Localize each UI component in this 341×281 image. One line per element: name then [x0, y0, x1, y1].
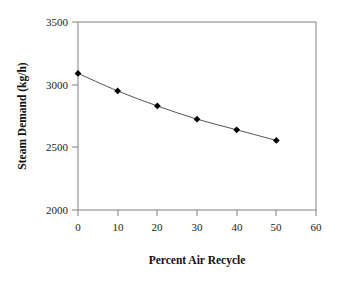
y-tick-label-2500: 2500: [46, 141, 69, 153]
x-tick-label-0: 0: [75, 221, 81, 233]
x-tick-label-10: 10: [113, 221, 125, 233]
line-chart: 3500 3000 2500 2000 0 10 20 30 40 50 60 …: [0, 0, 341, 281]
y-tick-label-3000: 3000: [46, 79, 69, 91]
y-tick-label-3500: 3500: [46, 16, 69, 28]
x-tick-label-30: 30: [192, 221, 204, 233]
x-tick-label-50: 50: [271, 221, 283, 233]
y-tick-label-2000: 2000: [46, 204, 69, 216]
x-tick-label-20: 20: [152, 221, 164, 233]
x-tick-label-60: 60: [311, 221, 323, 233]
chart-figure: 3500 3000 2500 2000 0 10 20 30 40 50 60 …: [0, 0, 341, 281]
x-tick-label-40: 40: [232, 221, 244, 233]
x-axis-title: Percent Air Recycle: [149, 254, 246, 267]
y-axis-title: Steam Demand (kg/h): [16, 62, 29, 170]
